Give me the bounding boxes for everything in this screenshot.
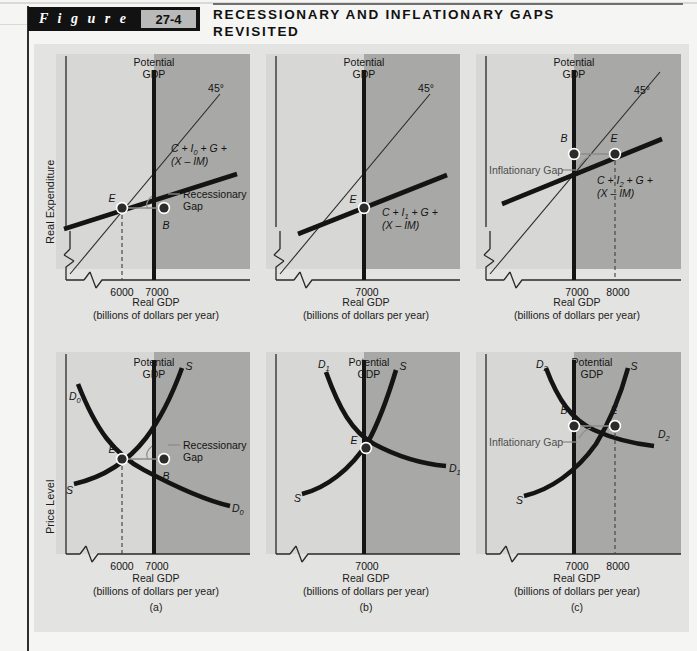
recessionary-gap-label-a-top-1: Recessionary <box>183 188 247 200</box>
x-axis-caption-b-top-1: Real GDP <box>266 296 466 309</box>
point-label-B-c-top: B <box>560 132 567 144</box>
panel-b-top: Potential GDP 45° E C + I1 + G + (X – IM… <box>266 54 460 298</box>
panel-letter-b: (b) <box>266 601 466 613</box>
recessionary-gap-label-a-top-2: Gap <box>183 200 203 212</box>
x-axis-caption-a-top: Real GDP (billions of dollars per year) <box>56 296 256 322</box>
point-E-c-top <box>609 148 621 160</box>
point-B-c-top <box>568 148 580 160</box>
x-axis-caption-a-top-2: (billions of dollars per year) <box>56 309 256 322</box>
supply-label-bottom-b-bottom: S <box>294 492 301 504</box>
inflationary-gap-label-c-bottom: Inflationary Gap <box>489 436 563 448</box>
point-E-a-top <box>116 202 128 214</box>
point-B-a-bottom <box>158 453 170 465</box>
x-axis-caption-a-bottom-2: (billions of dollars per year) <box>56 585 256 598</box>
panel-letter-c: (c) <box>477 601 677 613</box>
x-axis-caption-b-top-2: (billions of dollars per year) <box>266 309 466 322</box>
point-label-B-a-top: B <box>162 219 169 231</box>
point-label-E-a-top: E <box>108 192 116 204</box>
recessionary-gap-label-a-bottom-1: Recessionary <box>183 439 247 451</box>
top-scan-rule-2 <box>0 24 30 25</box>
supply-label-top-a-bottom: S <box>185 360 192 372</box>
point-label-B-c-bottom: B <box>560 404 567 416</box>
potential-gdp-label-c-top-1: Potential <box>554 56 595 68</box>
potential-gdp-label-b-top-2: GDP <box>353 68 376 80</box>
potential-gdp-label-a-bottom-1: Potential <box>134 356 175 368</box>
supply-label-top-c-bottom: S <box>630 360 637 372</box>
x-axis-caption-b-bottom: Real GDP (billions of dollars per year) <box>266 572 466 598</box>
potential-gdp-label-a-bottom-2: GDP <box>143 368 166 380</box>
figure-body: Real Expenditure Price Level <box>34 44 689 632</box>
potential-gdp-label-a-top-1: Potential <box>134 56 175 68</box>
point-E-a-bottom <box>116 453 128 465</box>
forty-five-label-a-top: 45° <box>208 82 224 94</box>
figure-title-line-1: RECESSIONARY AND INFLATIONARY GAPS <box>213 6 683 23</box>
potential-gdp-label-c-bottom-1: Potential <box>572 356 613 368</box>
panel-c-top: Potential GDP 45° B E Inflationary Gap C… <box>476 54 681 298</box>
panel-a-bottom: Potential GDP S D0 S D0 E B Recessionary… <box>56 352 250 572</box>
inflationary-gap-label-c-top: Inflationary Gap <box>489 164 563 176</box>
panel-b-bottom: Potential GDP D1 S S D1 E 7000 <box>266 352 461 572</box>
figure-title: RECESSIONARY AND INFLATIONARY GAPS REVIS… <box>213 6 683 40</box>
xtick-6000-a-bottom: 6000 <box>110 560 134 572</box>
point-B-a-top <box>158 202 170 214</box>
expenditure-expression-b-top-2: (X – IM) <box>382 219 419 231</box>
forty-five-label-b-top: 45° <box>418 82 434 94</box>
panel-b-top-dark-bg <box>364 54 460 269</box>
point-label-E-b-bottom: E <box>350 434 358 446</box>
recessionary-gap-label-a-bottom-2: Gap <box>183 451 203 463</box>
page-left-rule <box>27 6 29 651</box>
figure-page: F i g u r e 27-4 RECESSIONARY AND INFLAT… <box>0 0 697 651</box>
figure-title-line-2: REVISITED <box>213 23 683 40</box>
figure-number: 27-4 <box>155 12 181 27</box>
x-axis-caption-a-top-1: Real GDP <box>56 296 256 309</box>
potential-gdp-label-c-top-2: GDP <box>563 68 586 80</box>
figure-number-box: 27-4 <box>141 10 196 28</box>
point-label-E-b-top: E <box>349 193 357 205</box>
panel-letter-a: (a) <box>56 601 256 613</box>
point-label-E-a-bottom: E <box>108 443 116 455</box>
figure-label-bar: F i g u r e 27-4 <box>28 7 200 31</box>
x-axis-caption-c-top-2: (billions of dollars per year) <box>477 309 677 322</box>
x-axis-caption-b-top: Real GDP (billions of dollars per year) <box>266 296 466 322</box>
figure-word: F i g u r e <box>28 11 129 27</box>
forty-five-label-c-top: 45° <box>634 84 650 96</box>
supply-label-top-b-bottom: S <box>399 360 406 372</box>
panel-c-bottom: Potential GDP D2 S S D2 B E Inflationary… <box>476 352 681 572</box>
potential-gdp-label-a-top-2: GDP <box>143 68 166 80</box>
panel-a-top: Potential GDP 45° E B Recessionary Gap C… <box>56 54 250 298</box>
expenditure-expression-c-top-2: (X – IM) <box>597 187 634 199</box>
xtick-7000-b-bottom: 7000 <box>355 560 379 572</box>
supply-label-bottom-a-bottom: S <box>66 484 73 496</box>
potential-gdp-label-c-bottom-2: GDP <box>581 368 604 380</box>
x-axis-caption-c-top-1: Real GDP <box>477 296 677 309</box>
potential-gdp-label-b-top-1: Potential <box>344 56 385 68</box>
xtick-7000-c-bottom: 7000 <box>565 560 589 572</box>
x-axis-caption-c-top: Real GDP (billions of dollars per year) <box>477 296 677 322</box>
top-row-charts: Potential GDP 45° E B Recessionary Gap C… <box>34 44 689 314</box>
point-E-b-top <box>358 202 370 214</box>
x-axis-caption-c-bottom: Real GDP (billions of dollars per year) <box>477 572 677 598</box>
panel-b-bottom-dark-bg <box>364 352 460 554</box>
x-axis-caption-b-bottom-1: Real GDP <box>266 572 466 585</box>
x-axis-caption-c-bottom-2: (billions of dollars per year) <box>477 585 677 598</box>
x-axis-caption-a-bottom-1: Real GDP <box>56 572 256 585</box>
xtick-8000-c-bottom: 8000 <box>606 560 630 572</box>
panel-c-top-dark-bg <box>574 54 681 269</box>
header-rule <box>213 3 683 5</box>
point-label-E-c-bottom: E <box>610 404 618 416</box>
xtick-7000-a-bottom: 7000 <box>145 560 169 572</box>
supply-label-bottom-c-bottom: S <box>516 494 523 506</box>
point-label-E-c-top: E <box>610 132 618 144</box>
point-label-B-a-bottom: B <box>162 470 169 482</box>
point-B-c-bottom <box>568 420 580 432</box>
point-E-b-bottom <box>360 442 372 454</box>
point-E-c-bottom <box>609 420 621 432</box>
x-axis-caption-c-bottom-1: Real GDP <box>477 572 677 585</box>
potential-gdp-label-b-bottom-2: GDP <box>358 368 381 380</box>
expenditure-expression-a-top-2: (X – IM) <box>171 155 208 167</box>
potential-gdp-label-b-bottom-1: Potential <box>349 356 390 368</box>
x-axis-caption-b-bottom-2: (billions of dollars per year) <box>266 585 466 598</box>
x-axis-caption-a-bottom: Real GDP (billions of dollars per year) <box>56 572 256 598</box>
